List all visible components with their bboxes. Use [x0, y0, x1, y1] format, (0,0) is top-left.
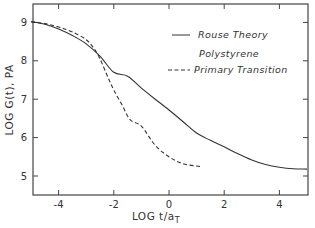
y-tick-label: 6 [21, 132, 27, 143]
y-axis-label: LOG G(t), PA [3, 64, 15, 135]
x-tick-label: -4 [54, 199, 64, 210]
y-tick-label: 9 [21, 17, 27, 28]
chart: -4-2024 56789 LOG t/aT LOG G(t), PA Rous… [0, 0, 315, 228]
svg-text:LOG t/aT: LOG t/aT [132, 210, 180, 225]
x-axis-label-main: LOG t/a [132, 210, 175, 222]
legend-heading-polystyrene: Polystyrene [199, 48, 259, 59]
x-tick-label: 4 [276, 199, 282, 210]
x-tick-label: -2 [109, 199, 119, 210]
x-axis-label-subscript: T [174, 216, 180, 225]
plot-series [31, 22, 307, 170]
legend-label-primary-transition: Primary Transition [194, 64, 288, 75]
x-tick-label: 0 [166, 199, 172, 210]
y-axis-label-text: LOG G(t), PA [3, 64, 15, 135]
y-tick-label: 7 [21, 94, 27, 105]
rouse-theory-line [31, 22, 307, 170]
primary-transition-line [31, 22, 202, 167]
y-axis-ticks: 56789 [21, 17, 308, 182]
x-axis-label: LOG t/aT [132, 210, 180, 225]
legend-label-rouse: Rouse Theory [198, 29, 268, 40]
x-tick-label: 2 [221, 199, 227, 210]
y-tick-label: 5 [21, 171, 27, 182]
legend: Rouse Theory Polystyrene Primary Transit… [168, 29, 288, 75]
y-tick-label: 8 [21, 55, 27, 66]
